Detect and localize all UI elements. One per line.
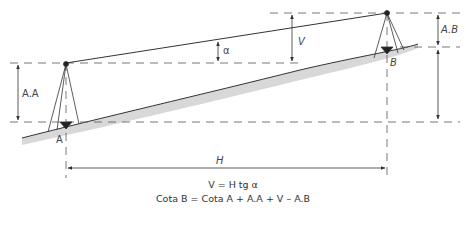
label-instrument-height-a: A.A: [22, 88, 39, 99]
label-station-a: A: [56, 134, 63, 145]
terrain: [22, 44, 418, 145]
formula-vertical: V = H tg α: [0, 179, 466, 190]
tripod-a: [48, 62, 79, 133]
formula-elevation: Cota B = Cota A + A.A + V – A.B: [0, 193, 466, 204]
label-vertical-difference: V: [298, 36, 306, 47]
label-signal-height-b: A.B: [440, 24, 458, 35]
label-station-b: B: [390, 57, 397, 68]
label-horizontal-distance: H: [216, 155, 224, 166]
label-angle: α: [223, 45, 230, 56]
